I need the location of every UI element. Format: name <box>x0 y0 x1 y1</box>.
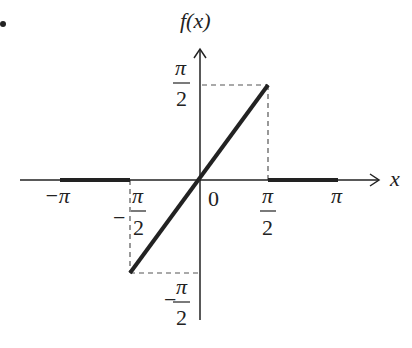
x-tick-neg-pi-half-num: π <box>132 183 144 208</box>
y-tick-pi-half-num: π <box>175 55 187 80</box>
y-tick-neg-sign: − <box>164 287 176 312</box>
x-axis-label: x <box>389 166 400 191</box>
x-tick-pi: π <box>331 183 343 208</box>
identity-segment <box>130 85 268 273</box>
x-tick-pi-half-num: π <box>262 183 274 208</box>
x-tick-neg-pi-half-den: 2 <box>133 215 144 240</box>
x-tick-neg-sign: − <box>113 205 125 230</box>
y-tick-neg-pi-half-num: π <box>176 274 188 299</box>
y-axis-label: f(x) <box>180 8 211 33</box>
function-curve <box>60 85 338 273</box>
y-tick-neg-pi-half-den: 2 <box>176 305 187 330</box>
x-tick-neg-pi: −π <box>44 183 71 208</box>
y-tick-pi-half-den: 2 <box>176 86 187 111</box>
x-tick-pi-half-den: 2 <box>262 215 273 240</box>
bullet-dot <box>0 21 6 27</box>
x-tick-zero: 0 <box>208 186 219 211</box>
piecewise-function-graph: f(x) x π 2 − π 2 −π − π 2 0 π 2 π <box>0 0 412 348</box>
